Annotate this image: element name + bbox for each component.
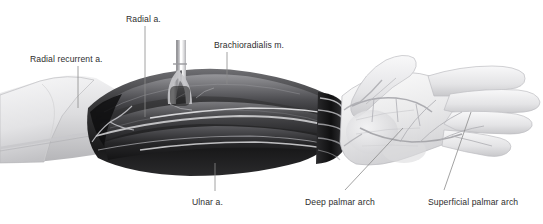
label-superficial-palmar-arch: Superficial palmar arch	[428, 198, 518, 207]
forearm-muscles-region	[87, 69, 336, 176]
label-deep-palmar-arch: Deep palmar arch	[305, 198, 375, 207]
label-radial: Radial a.	[126, 15, 161, 24]
hand-region	[340, 55, 540, 165]
label-radial-recurrent: Radial recurrent a.	[30, 55, 103, 64]
anatomy-illustration	[0, 0, 543, 224]
label-ulnar: Ulnar a.	[192, 198, 223, 207]
label-brachioradialis: Brachioradialis m.	[214, 41, 284, 50]
anatomical-figure: Radial recurrent a.Radial a.Brachioradia…	[0, 0, 543, 224]
